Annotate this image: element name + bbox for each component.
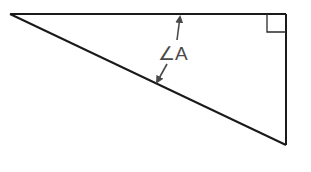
angle-arrow-upper [177,17,180,40]
right-triangle-diagram: ∠A [0,0,311,172]
right-angle-marker [267,14,286,32]
angle-a-label: ∠A [158,43,188,64]
triangle-hypotenuse [10,14,286,145]
angle-arrow-lower [157,64,167,82]
